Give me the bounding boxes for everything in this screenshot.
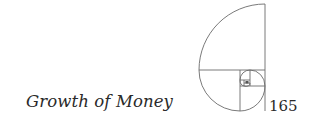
page-number: 165 (269, 97, 298, 115)
